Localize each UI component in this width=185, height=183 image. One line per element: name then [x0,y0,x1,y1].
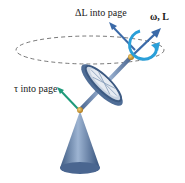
torque-arrow [60,90,79,110]
omega-L-arrow [134,33,156,54]
delta-L-label: ΔL into page [75,8,127,18]
cone-stand [60,111,100,174]
tau-label: τ into page [14,84,57,94]
omega-L-label: ω, L [150,12,169,22]
pivot-bottom [77,107,83,113]
